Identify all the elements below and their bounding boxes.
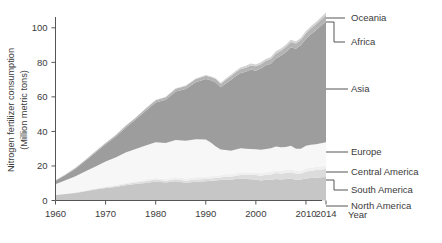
series-label-oceania: Oceania — [351, 12, 387, 23]
x-tick-label-2010: 2010 — [295, 208, 316, 219]
series-label-central-america: Central America — [351, 166, 419, 177]
series-label-asia: Asia — [351, 83, 370, 94]
x-tick-label-1980: 1980 — [145, 208, 166, 219]
x-tick-label-1990: 1990 — [195, 208, 216, 219]
x-tick-label-1970: 1970 — [95, 208, 116, 219]
y-tick-label-80: 80 — [37, 57, 48, 68]
y-axis-title-line2: (Million metric tons) — [19, 70, 29, 150]
series-label-europe: Europe — [351, 146, 382, 157]
x-tick-label-1960: 1960 — [45, 208, 66, 219]
y-tick-label-60: 60 — [37, 91, 48, 102]
stacked-area-chart: 020406080100 196019701980199020002010201… — [0, 0, 442, 243]
x-tick-label-2014: 2014 — [315, 208, 336, 219]
series-label-north-america: North America — [351, 200, 412, 211]
chart-figure: 020406080100 196019701980199020002010201… — [0, 0, 442, 243]
x-tick-label-2000: 2000 — [245, 208, 266, 219]
y-tick-label-100: 100 — [32, 22, 48, 33]
y-tick-label-40: 40 — [37, 126, 48, 137]
y-axis-title-line1: Nitrogen fertilizer consumption — [6, 48, 16, 172]
series-label-south-america: South America — [351, 184, 413, 195]
y-tick-label-0: 0 — [42, 195, 47, 206]
series-label-africa: Africa — [351, 36, 376, 47]
y-tick-label-20: 20 — [37, 160, 48, 171]
